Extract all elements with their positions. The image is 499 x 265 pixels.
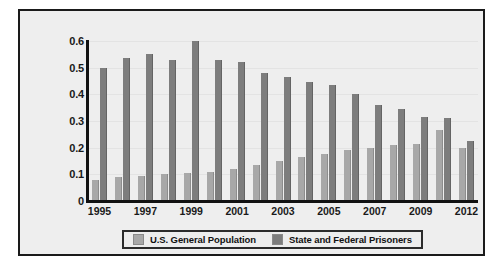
bar (298, 157, 305, 201)
y-tick-label: 0.4 (40, 88, 84, 100)
x-tick-label: 1997 (134, 205, 157, 217)
y-axis-line (86, 40, 89, 203)
legend-item: U.S. General Population (133, 234, 256, 245)
legend-swatch-icon (272, 234, 283, 245)
y-tick-label: 0.2 (40, 142, 84, 154)
y-axis-tick-labels: 0.60.50.40.30.20.10 (34, 11, 84, 254)
bar (321, 154, 328, 201)
bar (284, 77, 291, 201)
bar (146, 54, 153, 201)
bar (100, 68, 107, 201)
gridline (88, 41, 478, 42)
y-tick-label: 0.3 (40, 115, 84, 127)
bar (215, 60, 222, 201)
bar (306, 82, 313, 201)
chart-legend: U.S. General PopulationState and Federal… (122, 230, 423, 249)
legend-label: State and Federal Prisoners (289, 234, 412, 245)
bar (184, 173, 191, 201)
bar (467, 141, 474, 201)
bar (367, 148, 374, 201)
bar (138, 176, 145, 201)
bar (413, 144, 420, 201)
plot-area (88, 41, 478, 201)
x-tick-label: 2009 (409, 205, 432, 217)
bar (375, 105, 382, 201)
bar (92, 180, 99, 201)
chart-figure: 0.60.50.40.30.20.10 19951997199920012003… (0, 0, 499, 265)
y-tick-label: 0.5 (40, 62, 84, 74)
y-tick-label: 0 (40, 195, 84, 207)
x-axis-line (86, 200, 478, 203)
y-tick-label: 0.6 (40, 35, 84, 47)
bar (238, 62, 245, 201)
bar (276, 161, 283, 201)
bar (115, 177, 122, 201)
x-tick-label: 2003 (271, 205, 294, 217)
x-axis-tick-labels: 199519971999200120032005200720092012 (88, 205, 478, 221)
bar (169, 60, 176, 201)
x-tick-label: 2005 (317, 205, 340, 217)
bar (261, 73, 268, 201)
x-tick-label: 2007 (363, 205, 386, 217)
bar (390, 145, 397, 201)
legend-swatch-icon (133, 234, 144, 245)
bar (344, 150, 351, 201)
x-tick-label: 2001 (225, 205, 248, 217)
bar (421, 117, 428, 201)
legend-item: State and Federal Prisoners (272, 234, 412, 245)
bar (207, 172, 214, 201)
bar (192, 41, 199, 201)
x-tick-label: 2012 (455, 205, 478, 217)
legend-label: U.S. General Population (150, 234, 256, 245)
bar (230, 169, 237, 201)
chart-panel: 0.60.50.40.30.20.10 19951997199920012003… (18, 9, 485, 256)
x-tick-label: 1995 (88, 205, 111, 217)
bar (444, 118, 451, 201)
bar (459, 148, 466, 201)
x-tick-label: 1999 (180, 205, 203, 217)
bar (352, 94, 359, 201)
bar (123, 58, 130, 201)
bar (329, 85, 336, 201)
bar (253, 165, 260, 201)
bar (436, 130, 443, 201)
bar (398, 109, 405, 201)
bar (161, 174, 168, 201)
y-tick-label: 0.1 (40, 168, 84, 180)
